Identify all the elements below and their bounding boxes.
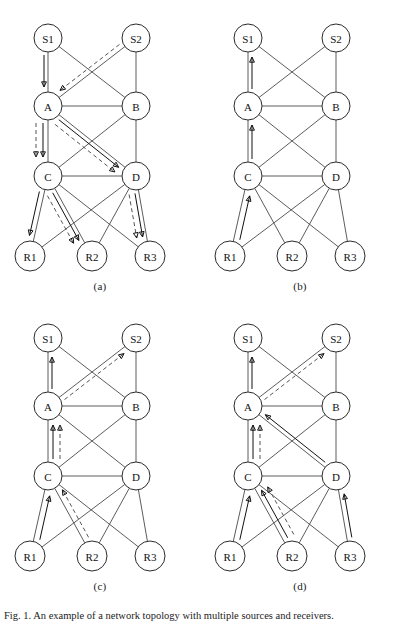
node-label-B: B xyxy=(332,101,339,113)
node-label-R2: R2 xyxy=(86,551,99,563)
node-D: D xyxy=(122,462,150,490)
panel-b-graph: S1S2ABCDR1R2R3 xyxy=(200,0,400,300)
node-label-R1: R1 xyxy=(24,251,37,263)
flow-A-to-S1-solid xyxy=(50,357,55,389)
edge-C-R1 xyxy=(33,490,45,542)
panel-c-caption: (c) xyxy=(0,580,200,592)
node-B: B xyxy=(122,392,150,420)
node-R1: R1 xyxy=(15,241,45,271)
node-label-R3: R3 xyxy=(144,251,157,263)
panel-d-graph: S1S2ABCDR1R2R3 xyxy=(200,300,400,600)
node-label-S1: S1 xyxy=(42,33,54,45)
node-A: A xyxy=(34,92,62,120)
edge-D-R3 xyxy=(138,490,147,541)
node-R2: R2 xyxy=(77,241,107,271)
flow-A-to-C-dashed xyxy=(34,123,39,157)
node-B: B xyxy=(322,92,350,120)
edge-C-R2 xyxy=(255,488,285,543)
panel-a-graph: S1S2ABCDR1R2R3 xyxy=(0,0,200,300)
node-label-D: D xyxy=(332,471,340,483)
flow-S2-to-A-dashed xyxy=(60,44,120,90)
flow-C-to-A-solid xyxy=(51,425,56,459)
node-label-D: D xyxy=(132,171,140,183)
node-S2: S2 xyxy=(322,324,350,352)
edge-D-R2 xyxy=(99,488,129,543)
flow-A-to-S2-dashed xyxy=(65,354,125,400)
edge-D-R1 xyxy=(242,184,325,247)
node-D: D xyxy=(322,462,350,490)
node-A: A xyxy=(234,92,262,120)
flow-A-to-S1-solid xyxy=(250,57,255,89)
node-R3: R3 xyxy=(135,541,165,571)
node-label-A: A xyxy=(244,401,252,413)
node-R3: R3 xyxy=(135,241,165,271)
node-R3: R3 xyxy=(335,541,365,571)
flow-S1-to-A-solid xyxy=(42,55,47,87)
node-label-S1: S1 xyxy=(242,33,254,45)
node-R2: R2 xyxy=(77,541,107,571)
node-label-C: C xyxy=(44,471,51,483)
node-label-C: C xyxy=(244,471,251,483)
node-label-B: B xyxy=(132,101,139,113)
node-label-R3: R3 xyxy=(144,551,157,563)
edge-C-R1 xyxy=(233,190,245,242)
edge-D-R1 xyxy=(42,484,125,547)
flow-C-to-A-dashed xyxy=(258,425,263,459)
panel-c-graph: S1S2ABCDR1R2R3 xyxy=(0,300,200,600)
node-label-R1: R1 xyxy=(224,551,237,563)
flow-A-to-C-solid xyxy=(41,123,46,157)
edge-C-R2 xyxy=(255,188,285,243)
node-label-S1: S1 xyxy=(42,333,54,345)
panel-b-caption: (b) xyxy=(200,280,400,292)
node-label-S1: S1 xyxy=(242,333,254,345)
panel-a: S1S2ABCDR1R2R3 (a) xyxy=(0,0,200,300)
node-label-R2: R2 xyxy=(286,251,299,263)
flow-A-to-D-dashed xyxy=(55,124,115,172)
node-label-S2: S2 xyxy=(330,333,342,345)
node-label-D: D xyxy=(132,471,140,483)
node-R2: R2 xyxy=(277,541,307,571)
flow-R1-to-C-solid xyxy=(40,496,51,540)
node-R2: R2 xyxy=(277,241,307,271)
figure-caption: Fig. 1. An example of a network topology… xyxy=(4,609,398,622)
edge-D-R3 xyxy=(338,190,347,241)
panel-a-caption: (a) xyxy=(0,280,200,292)
flow-A-to-S1-solid xyxy=(250,357,255,389)
flow-R1-to-C-solid xyxy=(240,496,251,540)
node-label-S2: S2 xyxy=(330,33,342,45)
node-S2: S2 xyxy=(122,324,150,352)
node-label-R2: R2 xyxy=(86,251,99,263)
edge-D-R1 xyxy=(42,184,125,247)
node-label-B: B xyxy=(132,401,139,413)
flow-C-to-A-solid xyxy=(250,125,255,159)
node-label-A: A xyxy=(244,101,252,113)
edge-D-R2 xyxy=(299,488,329,543)
node-S2: S2 xyxy=(122,24,150,52)
edge-C-R2 xyxy=(55,488,85,543)
node-S2: S2 xyxy=(322,24,350,52)
node-A: A xyxy=(234,392,262,420)
node-C: C xyxy=(34,462,62,490)
node-label-C: C xyxy=(244,171,251,183)
node-R1: R1 xyxy=(215,241,245,271)
flow-C-to-R2-solid xyxy=(53,193,79,241)
panel-d-caption: (d) xyxy=(200,580,400,592)
node-S1: S1 xyxy=(34,24,62,52)
node-label-A: A xyxy=(44,401,52,413)
node-label-D: D xyxy=(332,171,340,183)
edge-C-R1 xyxy=(33,190,45,242)
flow-C-to-A-dashed xyxy=(58,425,63,459)
node-label-A: A xyxy=(44,101,52,113)
node-label-R1: R1 xyxy=(24,551,37,563)
node-D: D xyxy=(322,162,350,190)
edge-C-R2 xyxy=(55,188,85,243)
edge-D-R2 xyxy=(299,188,329,243)
node-label-R2: R2 xyxy=(286,551,299,563)
panel-d: S1S2ABCDR1R2R3 (d) xyxy=(200,300,400,600)
node-R1: R1 xyxy=(215,541,245,571)
flow-R2-to-C-dashed xyxy=(62,490,88,538)
flow-C-to-R1-solid xyxy=(28,191,39,235)
node-B: B xyxy=(322,392,350,420)
node-label-S2: S2 xyxy=(130,33,142,45)
